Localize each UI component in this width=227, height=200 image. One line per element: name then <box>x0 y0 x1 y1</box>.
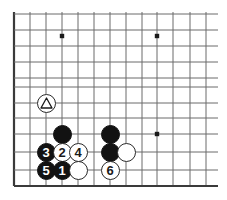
stone-move-number: 1 <box>58 163 65 176</box>
white-stone-unnumbered-right <box>117 143 136 162</box>
black-stone-unnumbered-left <box>53 125 72 144</box>
star-point-lower-right <box>155 132 159 136</box>
white-stone-triangle-marked <box>37 94 56 113</box>
white-stone-unnumbered-bottom-left <box>69 161 88 180</box>
star-point-upper-right <box>155 34 159 38</box>
white-stone-6: 6 <box>101 161 120 180</box>
stone-move-number: 2 <box>58 145 65 158</box>
black-stone-unnumbered-right-upper <box>101 125 120 144</box>
triangle-icon <box>40 97 53 109</box>
stone-move-number: 5 <box>42 163 49 176</box>
go-board-diagram: 324516 <box>0 0 227 200</box>
stone-move-number: 6 <box>106 163 113 176</box>
star-point-upper-left <box>60 34 64 38</box>
white-stone-4: 4 <box>69 143 88 162</box>
stone-move-number: 3 <box>42 145 49 158</box>
stone-move-number: 4 <box>74 145 81 158</box>
